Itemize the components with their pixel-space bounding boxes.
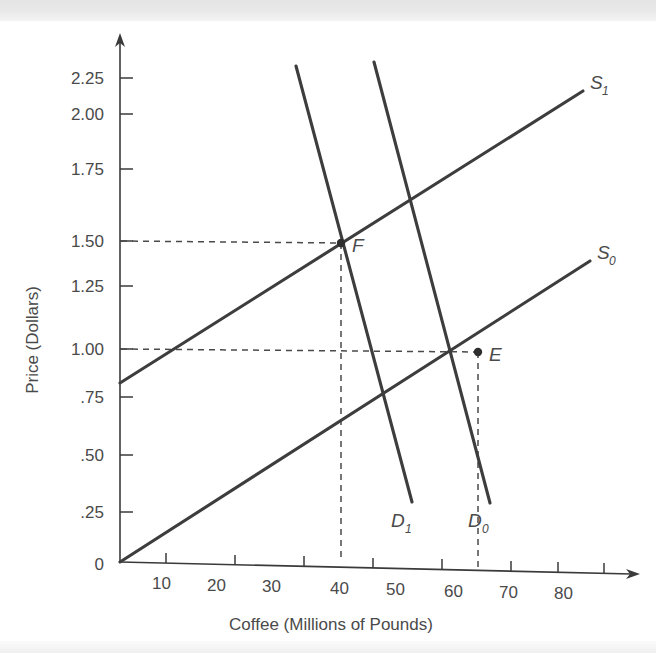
y-tick-label-1-25: 1.25 <box>71 277 104 296</box>
x-axis-line <box>120 562 632 574</box>
x-axis-tick-labels: 10 20 30 40 50 60 70 80 <box>152 574 573 603</box>
equilibrium-point-e-group: E <box>474 344 502 365</box>
equilibrium-label-f: F <box>352 235 365 256</box>
curve-label-d0-subscript: 0 <box>482 522 489 536</box>
x-tick-label-60: 60 <box>444 582 463 601</box>
curve-label-s1-subscript: 1 <box>602 84 609 98</box>
equilibrium-dot-e <box>474 348 482 356</box>
curve-label-s0-subscript: 0 <box>609 254 616 268</box>
curve-label-d1-subscript: 1 <box>405 522 412 536</box>
curve-label-s1-group: S 1 <box>590 72 609 98</box>
equilibrium-dot-f <box>337 239 345 247</box>
x-axis-title: Coffee (Millions of Pounds) <box>229 615 433 634</box>
x-tick-label-70: 70 <box>499 583 518 602</box>
y-tick-label-1-50: 1.50 <box>71 232 104 251</box>
curve-label-d1-group: D 1 <box>391 510 412 536</box>
supply-demand-chart: 2.25 2.00 1.75 1.50 1.25 1.00 .75 .50 .2… <box>0 0 656 653</box>
curve-label-s0-group: S 0 <box>597 242 616 268</box>
guide-horizontal-price-1-50 <box>121 241 341 243</box>
x-tick-label-30: 30 <box>262 577 281 596</box>
y-tick-label-1-75: 1.75 <box>71 160 104 179</box>
y-axis-title: Price (Dollars) <box>23 286 42 394</box>
y-tick-label-0-50: .50 <box>80 446 104 465</box>
y-axis <box>115 33 133 562</box>
y-tick-label-0-75: .75 <box>80 388 104 407</box>
y-tick-label-0: 0 <box>95 555 104 574</box>
y-tick-label-2-25: 2.25 <box>71 69 104 88</box>
demand-curve-d0 <box>374 62 490 503</box>
y-tick-label-1-00: 1.00 <box>71 340 104 359</box>
supply-curve-s0 <box>120 261 590 562</box>
x-tick-label-80: 80 <box>554 584 573 603</box>
figure-page: 2.25 2.00 1.75 1.50 1.25 1.00 .75 .50 .2… <box>0 0 656 653</box>
y-tick-label-2-00: 2.00 <box>71 105 104 124</box>
x-tick-label-10: 10 <box>152 574 171 593</box>
curve-label-d1: D <box>391 510 405 531</box>
x-tick-label-20: 20 <box>207 576 226 595</box>
guide-lines <box>121 241 478 570</box>
curve-label-d0: D <box>468 510 482 531</box>
x-tick-label-50: 50 <box>386 580 405 599</box>
y-axis-tick-labels: 2.25 2.00 1.75 1.50 1.25 1.00 .75 .50 .2… <box>71 69 104 574</box>
equilibrium-label-e: E <box>489 344 502 365</box>
y-tick-label-0-25: .25 <box>80 503 104 522</box>
x-tick-label-40: 40 <box>330 579 349 598</box>
x-axis <box>120 553 640 579</box>
